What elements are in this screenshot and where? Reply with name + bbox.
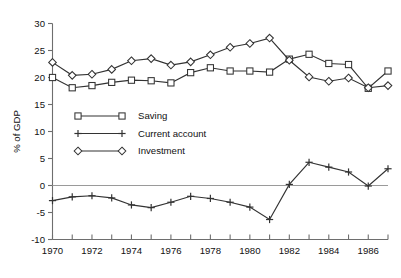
point-saving-1970	[49, 74, 55, 80]
point-saving-1973	[109, 79, 115, 85]
legend-marker-end-diamond	[118, 147, 126, 155]
point-investment-1985	[345, 74, 353, 82]
point-investment-1987	[384, 82, 392, 90]
y-tick-label-25: 25	[34, 45, 45, 56]
y-tick-label-30: 30	[34, 18, 45, 29]
y-tick-label--10: -10	[31, 234, 45, 245]
point-investment-1979	[226, 43, 234, 51]
y-tick-label-0: 0	[40, 180, 45, 191]
legend-label-investment: Investment	[138, 145, 185, 156]
point-investment-1972	[88, 70, 96, 78]
y-tick-label-10: 10	[34, 126, 45, 137]
point-investment-1978	[207, 51, 215, 59]
point-saving-1977	[188, 70, 194, 76]
point-investment-1975	[147, 55, 155, 63]
point-saving-1985	[345, 61, 351, 67]
line-chart-plot: -10-505101520253019701972197419761978198…	[0, 0, 401, 278]
series-line-investment	[53, 38, 389, 88]
point-investment-1976	[167, 61, 175, 69]
chart-figure: -10-505101520253019701972197419761978198…	[0, 0, 401, 278]
point-saving-1980	[247, 68, 253, 74]
x-tick-label-1982: 1982	[279, 245, 300, 256]
series-line-current-account	[53, 162, 389, 219]
point-investment-1973	[108, 66, 116, 74]
x-tick-label-1984: 1984	[318, 245, 340, 256]
point-saving-1984	[326, 60, 332, 66]
legend-marker-end-square	[119, 113, 125, 119]
x-tick-label-1976: 1976	[160, 245, 181, 256]
point-investment-1971	[68, 72, 76, 80]
point-saving-1983	[306, 51, 312, 57]
point-saving-1971	[69, 85, 75, 91]
x-tick-label-1974: 1974	[121, 245, 143, 256]
x-tick-label-1972: 1972	[81, 245, 102, 256]
point-investment-1974	[128, 57, 136, 65]
x-tick-label-1980: 1980	[239, 245, 260, 256]
point-investment-1970	[49, 59, 57, 67]
y-axis-title: % of GDP	[11, 110, 22, 153]
legend-label-current-account: Current account	[138, 128, 207, 139]
point-saving-1974	[128, 77, 134, 83]
x-tick-label-1978: 1978	[200, 245, 221, 256]
point-saving-1981	[266, 69, 272, 75]
point-saving-1978	[207, 65, 213, 71]
y-tick-label-20: 20	[34, 72, 45, 83]
x-tick-label-1986: 1986	[358, 245, 379, 256]
legend-marker-start-square	[75, 113, 81, 119]
point-saving-1976	[168, 80, 174, 86]
point-saving-1972	[89, 83, 95, 89]
point-investment-1984	[325, 77, 333, 85]
y-tick-label-15: 15	[34, 99, 45, 110]
x-tick-label-1970: 1970	[42, 245, 63, 256]
point-saving-1979	[227, 68, 233, 74]
point-saving-1987	[385, 68, 391, 74]
legend-label-saving: Saving	[138, 110, 167, 121]
point-saving-1975	[148, 78, 154, 84]
point-investment-1980	[246, 40, 254, 48]
legend-marker-start-diamond	[74, 147, 82, 155]
point-investment-1977	[187, 58, 195, 66]
y-tick-label-5: 5	[40, 153, 45, 164]
y-tick-label--5: -5	[36, 207, 45, 218]
